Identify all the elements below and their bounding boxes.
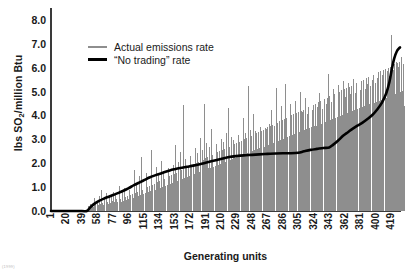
x-tick-label: 343 [324, 213, 334, 230]
x-tick-label: 305 [293, 213, 303, 230]
legend-item-no-trading-rate: “No trading” rate [88, 54, 214, 65]
x-tick-label: 58 [92, 213, 102, 224]
x-tick-label: 419 [386, 213, 396, 230]
x-tick-label: 20 [61, 213, 71, 224]
x-tick-label: 39 [77, 213, 87, 224]
plot-area [51, 8, 400, 211]
legend-swatch-actual-emissions-rate [88, 46, 107, 48]
x-tick-label: 172 [185, 213, 195, 230]
x-axis-title: Generating units [51, 250, 400, 262]
x-tick-label: 381 [355, 213, 365, 230]
x-tick-label: 77 [108, 213, 118, 224]
x-tick-labels: 1203958779611513415317219121022924826728… [51, 213, 400, 249]
x-tick-label: 248 [247, 213, 257, 230]
legend-swatch-no-trading-rate [88, 58, 107, 61]
x-tick-label: 153 [170, 213, 180, 230]
x-tick-label: 1 [46, 213, 56, 219]
x-tick-label: 400 [371, 213, 381, 230]
y-tick-label: 1.0 [2, 181, 46, 193]
x-tick-label: 210 [216, 213, 226, 230]
y-tick-label: 5.0 [2, 86, 46, 98]
y-tick-label: 0.0 [2, 205, 46, 217]
y-tick-label: 4.0 [2, 109, 46, 121]
legend-item-actual-emissions-rate: Actual emissions rate [88, 41, 214, 52]
x-tick-label: 324 [309, 213, 319, 230]
x-tick-label: 191 [201, 213, 211, 230]
legend-label-actual-emissions-rate: Actual emissions rate [114, 41, 214, 53]
x-tick-label: 286 [278, 213, 288, 230]
y-tick-label: 3.0 [2, 133, 46, 145]
x-tick-label: 362 [340, 213, 350, 230]
x-tick-label: 267 [262, 213, 272, 230]
x-tick-label: 115 [139, 213, 149, 229]
x-tick-label: 134 [154, 213, 164, 230]
legend-label-no-trading-rate: “No trading” rate [114, 54, 190, 66]
y-tick-label: 7.0 [2, 38, 46, 50]
y-tick-labels: 0.01.02.03.04.05.06.07.08.0 [0, 8, 46, 211]
footnote: (1999) [2, 264, 15, 269]
x-tick-label: 229 [231, 213, 241, 230]
emissions-rate-chart: lbs SO2/million Btu 0.01.02.03.04.05.06.… [0, 0, 408, 273]
legend: Actual emissions rate “No trading” rate [88, 41, 214, 67]
x-tick-label: 96 [123, 213, 133, 224]
y-tick-label: 6.0 [2, 62, 46, 74]
no-trading-rate-curve [51, 8, 400, 211]
y-tick-label: 2.0 [2, 157, 46, 169]
y-tick-label: 8.0 [2, 14, 46, 26]
